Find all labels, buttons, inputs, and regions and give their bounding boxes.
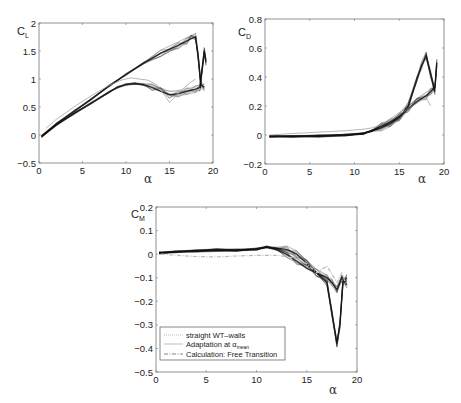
y-tick-label: 0.4 [249,72,262,83]
y-tick-label: 0 [148,249,153,260]
y-tick-label: 2 [31,18,36,29]
y-tick-label: −0.4 [134,343,153,354]
x-tick-label: 0 [262,166,267,177]
cl-y-axis-label: CL [17,25,29,39]
y-tick-label: 0.5 [23,102,36,113]
x-tick-label: 10 [349,166,360,177]
x-tick-label: 10 [251,374,262,385]
cm-x-axis-label: α [329,383,337,397]
y-tick-label: 0.2 [249,101,262,112]
x-tick-label: 20 [439,166,450,177]
y-tick-label: 0 [257,130,262,141]
x-tick-label: 0 [36,165,41,176]
x-tick-label: 15 [164,165,175,176]
cd-vs-alpha-plot: 05101520−0.200.20.40.60.8 CD α [238,14,449,187]
y-tick-label: 1.5 [23,46,36,57]
x-tick-label: 0 [153,374,158,385]
x-tick-label: 10 [121,165,132,176]
y-tick-label: 0.6 [249,43,262,54]
x-tick-label: 15 [301,374,312,385]
x-tick-label: 5 [80,165,85,176]
cd-y-axis-label: CD [238,26,251,40]
x-tick-label: 5 [307,166,312,177]
x-tick-label: 20 [208,165,219,176]
cm-vs-alpha-plot: 05101520−0.5−0.4−0.3−0.2−0.100.10.2 CM α… [131,202,362,398]
legend-label-calculation: Calculation: Free Transition [186,350,277,359]
x-tick-label: 20 [352,374,363,385]
cl-vs-alpha-plot: 05101520−0.500.511.52 CL α [17,18,218,187]
x-tick-label: 5 [204,374,209,385]
y-tick-label: 0.2 [140,202,153,213]
cd-plot-frame [265,19,444,164]
y-tick-label: 0 [31,130,36,141]
y-tick-label: −0.1 [134,272,153,283]
cd-x-axis-label: α [418,172,426,186]
cm-legend: straight WT–walls Adaptation at αmean Ca… [160,327,285,360]
cl-x-axis-label: α [144,172,152,186]
y-tick-label: 0.8 [249,14,262,25]
y-tick-label: −0.2 [243,159,262,170]
legend-label-straight-walls: straight WT–walls [186,331,245,340]
figure-canvas: 05101520−0.500.511.52 CL α 05101520−0.20… [0,0,461,403]
y-tick-label: −0.5 [134,367,153,378]
x-tick-label: 15 [394,166,405,177]
y-tick-label: −0.2 [134,296,153,307]
y-tick-label: 0.1 [140,225,153,236]
y-tick-label: −0.3 [134,319,153,330]
y-tick-label: 1 [31,74,36,85]
y-tick-label: −0.5 [17,158,36,169]
